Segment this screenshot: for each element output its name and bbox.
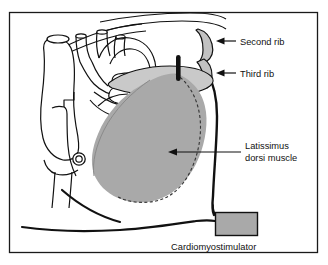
pedicle-ring-inner — [76, 156, 82, 162]
vessel-top-opening — [47, 35, 69, 43]
vena-cava-shape — [41, 37, 79, 161]
arch-branch-2-top — [97, 30, 107, 34]
latissimus-label-line2: dorsi muscle — [245, 153, 297, 163]
cardiomyostimulator-label: Cardiomyostimulator — [171, 242, 256, 252]
device-body — [216, 213, 258, 236]
arch-branch-1-top — [76, 34, 86, 38]
cardiomyoplasty-diagram: Second rib Third rib Latissimus dorsi mu… — [0, 0, 328, 265]
cardiomyostimulator-device — [216, 213, 258, 236]
diagram-canvas: Second rib Third rib Latissimus dorsi mu… — [0, 0, 328, 265]
latissimus-label-line1: Latissimus — [245, 141, 289, 151]
second-rib-label: Second rib — [240, 37, 284, 47]
third-rib-label: Third rib — [240, 69, 274, 79]
electrode-lead-bar — [176, 55, 181, 81]
